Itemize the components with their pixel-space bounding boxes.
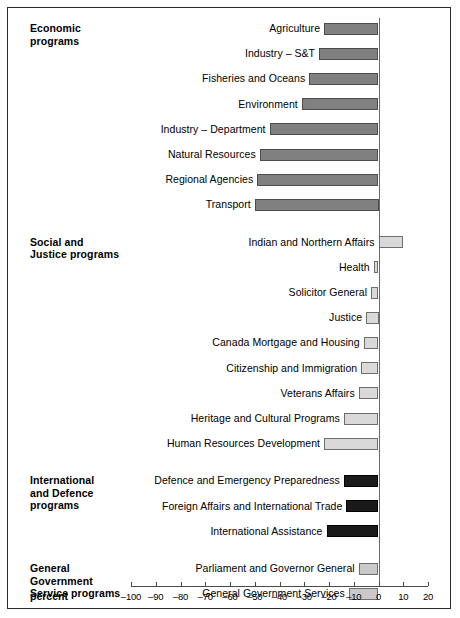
x-axis-tick — [379, 582, 380, 586]
bar — [257, 174, 378, 186]
x-axis-tick — [230, 582, 231, 586]
chart-row: Indian and Northern Affairs — [8, 235, 452, 250]
chart-row: Natural Resources — [8, 147, 452, 162]
bar — [344, 475, 379, 487]
bar-label: Indian and Northern Affairs — [8, 235, 379, 250]
bar — [309, 73, 378, 85]
x-axis-tick — [280, 582, 281, 586]
chart-row: Parliament and Governor General — [8, 561, 452, 576]
bar — [359, 387, 379, 399]
chart-row: Human Resources Development — [8, 436, 452, 451]
bar — [319, 48, 378, 60]
bar-label: International Assistance — [8, 524, 327, 539]
chart-row: Canada Mortgage and Housing — [8, 335, 452, 350]
chart-plot-area: Economic programsAgricultureIndustry – S… — [8, 8, 452, 610]
chart-row: Defence and Emergency Preparedness — [8, 473, 452, 488]
bar — [379, 236, 404, 248]
x-axis-tick-label: 20 — [408, 591, 448, 602]
chart-row: Agriculture — [8, 21, 452, 36]
chart-row: Solicitor General — [8, 285, 452, 300]
bar — [346, 500, 378, 512]
x-axis-tick — [255, 582, 256, 586]
bar-label: Industry – S&T — [8, 46, 319, 61]
bar — [255, 199, 379, 211]
chart-row: Industry – S&T — [8, 46, 452, 61]
bar-label: Canada Mortgage and Housing — [8, 335, 364, 350]
bar — [361, 362, 378, 374]
bar — [324, 23, 378, 35]
bar — [344, 413, 379, 425]
bar-label: Solicitor General — [8, 285, 371, 300]
bar-label: Agriculture — [8, 21, 324, 36]
chart-row: Regional Agencies — [8, 172, 452, 187]
bar-label: Veterans Affairs — [8, 386, 359, 401]
x-axis-tick — [304, 582, 305, 586]
bar — [270, 123, 379, 135]
bar — [364, 337, 379, 349]
chart-row: Environment — [8, 97, 452, 112]
chart-row: Transport — [8, 197, 452, 212]
x-axis-tick — [205, 582, 206, 586]
bar — [371, 287, 378, 299]
x-axis-tick — [181, 582, 182, 586]
bar-label: Natural Resources — [8, 147, 260, 162]
chart-row: Justice — [8, 310, 452, 325]
bar-label: Human Resources Development — [8, 436, 324, 451]
x-axis-line — [131, 586, 428, 587]
x-axis-title: percent — [30, 590, 68, 602]
bar-label: Justice — [8, 310, 366, 325]
bar — [324, 438, 378, 450]
bar-label: Foreign Affairs and International Trade — [8, 499, 346, 514]
bar — [327, 525, 379, 537]
bar-label: Health — [8, 260, 374, 275]
chart-row: Veterans Affairs — [8, 386, 452, 401]
bar-label: Transport — [8, 197, 255, 212]
bar — [359, 563, 379, 575]
chart-row: Industry – Department — [8, 122, 452, 137]
x-axis-tick — [428, 582, 429, 586]
bar-label: Parliament and Governor General — [8, 561, 359, 576]
bar-label: Industry – Department — [8, 122, 270, 137]
chart-row: Health — [8, 260, 452, 275]
bar-label: Regional Agencies — [8, 172, 257, 187]
bar-label: Defence and Emergency Preparedness — [8, 473, 344, 488]
x-axis-tick — [403, 582, 404, 586]
chart-row: Foreign Affairs and International Trade — [8, 499, 452, 514]
bar-label: Fisheries and Oceans — [8, 71, 309, 86]
x-axis-tick — [329, 582, 330, 586]
chart-row: Citizenship and Immigration — [8, 361, 452, 376]
bar-label: Citizenship and Immigration — [8, 361, 361, 376]
bar — [366, 312, 378, 324]
zero-line — [379, 18, 380, 586]
chart-frame: Economic programsAgricultureIndustry – S… — [7, 7, 451, 609]
chart-row: Heritage and Cultural Programs — [8, 411, 452, 426]
bar — [260, 149, 379, 161]
chart-row: Fisheries and Oceans — [8, 71, 452, 86]
x-axis-tick — [156, 582, 157, 586]
chart-row: International Assistance — [8, 524, 452, 539]
x-axis-tick — [131, 582, 132, 586]
bar-label: Heritage and Cultural Programs — [8, 411, 344, 426]
bar — [302, 98, 379, 110]
x-axis-tick — [354, 582, 355, 586]
bar-label: Environment — [8, 97, 302, 112]
